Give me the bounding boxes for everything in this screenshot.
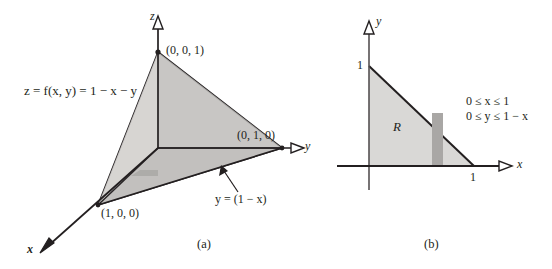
panel-b-y-axis-arrowhead-icon — [364, 21, 374, 34]
panel-a-caption: (a) — [197, 238, 211, 251]
x-axis-label: x — [27, 243, 33, 255]
y-axis-label: y — [305, 140, 310, 152]
point-001-label: (0, 0, 1) — [166, 44, 204, 56]
edge-label-leader-line — [224, 171, 238, 192]
panel-b-x-tick-label-1: 1 — [470, 171, 476, 183]
region-R-label: R — [393, 120, 401, 133]
region-R-sample-strip — [432, 113, 443, 166]
point-100-label: (1, 0, 0) — [101, 207, 139, 219]
edge-equation-label: y = (1 − x) — [215, 193, 267, 205]
panel-b-caption: (b) — [424, 238, 439, 251]
panel-b-y-tick-label-1: 1 — [357, 59, 363, 71]
figure-container: z y x z = f(x, y) = 1 − x − y (0, 0, 1) … — [0, 0, 552, 269]
panel-b-x-axis-label: x — [517, 158, 522, 170]
point-010-label: (0, 1, 0) — [237, 129, 275, 141]
vertex-dot-010 — [280, 146, 285, 151]
plane-equation-label: z = f(x, y) = 1 − x − y — [24, 84, 137, 97]
panel-b-y-axis-label: y — [376, 15, 381, 27]
inequality-x-label: 0 ≤ x ≤ 1 — [466, 95, 509, 107]
panel-b-x-axis-arrowhead-icon — [499, 161, 512, 171]
z-axis-label: z — [150, 10, 155, 22]
inequality-y-label: 0 ≤ y ≤ 1 − x — [466, 110, 528, 122]
vertex-dot-100 — [96, 203, 101, 208]
x-axis-arrowhead-icon — [40, 238, 54, 253]
y-axis-arrowhead-icon — [291, 143, 304, 153]
x-axis-line — [48, 148, 158, 246]
panel-a-graphic — [0, 0, 552, 269]
vertex-dot-001 — [155, 49, 160, 54]
